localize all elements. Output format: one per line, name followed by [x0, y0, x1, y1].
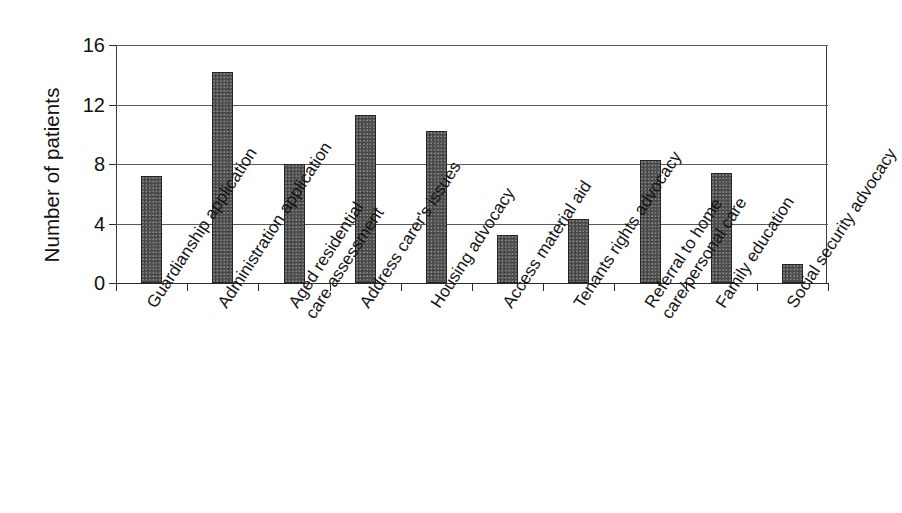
y-tick-mark: [109, 283, 116, 284]
x-tick-mark: [258, 283, 259, 291]
y-tick-label: 8: [94, 153, 105, 176]
x-tick-mark: [116, 283, 117, 291]
x-tick-mark: [187, 283, 188, 291]
x-tick-mark: [401, 283, 402, 291]
x-tick-mark: [757, 283, 758, 291]
x-tick-mark: [614, 283, 615, 291]
y-tick-label: 16: [83, 34, 105, 57]
y-tick-mark: [109, 224, 116, 225]
bar[interactable]: [141, 176, 162, 283]
gridline: [116, 45, 828, 46]
y-tick-label: 0: [94, 272, 105, 295]
bar[interactable]: [568, 219, 589, 283]
x-tick-mark: [543, 283, 544, 291]
x-tick-mark: [472, 283, 473, 291]
y-tick-label: 12: [83, 93, 105, 116]
y-axis-title: Number of patients: [40, 60, 64, 290]
y-tick-mark: [109, 105, 116, 106]
y-tick-label: 4: [94, 212, 105, 235]
y-tick-mark: [109, 45, 116, 46]
y-tick-mark: [109, 164, 116, 165]
x-tick-mark: [828, 283, 829, 291]
